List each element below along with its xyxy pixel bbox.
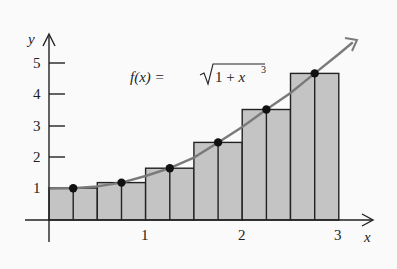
y-tick-5: 5 [33,55,41,71]
y-axis-label: y [26,31,35,47]
y-tick-2: 2 [33,149,41,165]
riemann-sum-figure: y x 1 2 3 4 5 1 2 3 f(x) = 1 + x 3 [0,0,397,269]
y-tick-3: 3 [33,118,41,134]
x-tick-1: 1 [141,227,149,243]
x-tick-2: 2 [238,227,246,243]
x-axis-label: x [363,229,371,245]
riemann-rectangles [49,73,339,220]
y-tick-4: 4 [33,86,41,102]
function-radicand: 1 + x [215,69,245,85]
function-name: f(x) = [130,69,168,86]
function-label: f(x) = 1 + x 3 [130,64,266,86]
function-exponent: 3 [261,64,266,75]
y-tick-1: 1 [33,180,41,196]
x-tick-3: 3 [334,227,342,243]
